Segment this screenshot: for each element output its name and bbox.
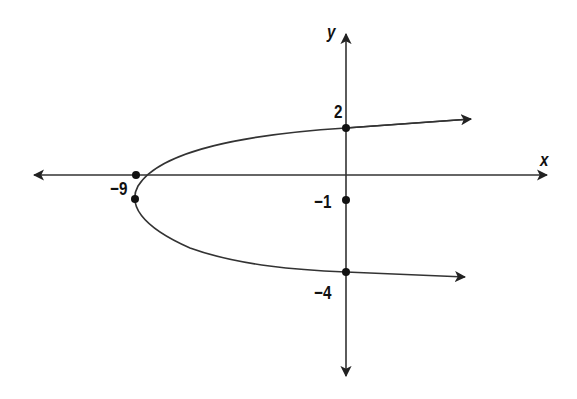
y-axis-label: y	[327, 22, 335, 41]
x-axis-label: x	[540, 150, 548, 169]
parabola-upper-arrow	[346, 119, 471, 128]
parabola-graph	[0, 0, 577, 399]
point-y-neg4	[342, 268, 350, 276]
label-neg4: −4	[314, 283, 331, 302]
label-neg1: −1	[314, 192, 331, 211]
parabola-curve	[135, 119, 471, 277]
label-neg9: −9	[110, 179, 127, 198]
point-x-neg9	[132, 171, 140, 179]
point-y-2	[342, 124, 350, 132]
point-y-neg1	[342, 196, 350, 204]
point-vertex	[131, 195, 139, 203]
label-2: 2	[334, 102, 342, 121]
